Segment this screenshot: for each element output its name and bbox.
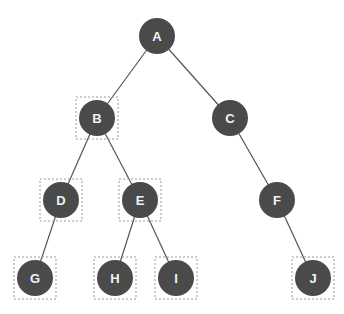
tree-node-a: A	[139, 18, 175, 54]
node-label: F	[273, 193, 281, 208]
node-label: H	[110, 271, 119, 286]
node-label: C	[225, 111, 235, 126]
tree-node-h: H	[97, 260, 133, 296]
tree-node-g: G	[17, 260, 53, 296]
tree-node-c: C	[212, 100, 248, 136]
tree-node-f: F	[259, 182, 295, 218]
tree-node-j: J	[295, 260, 331, 296]
node-label: J	[309, 271, 316, 286]
node-label: I	[174, 271, 178, 286]
node-label: E	[136, 193, 145, 208]
node-label: G	[30, 271, 40, 286]
tree-node-d: D	[43, 182, 79, 218]
tree-node-b: B	[79, 100, 115, 136]
node-label: B	[92, 111, 101, 126]
nodes: ABCDEFGHIJ	[17, 18, 331, 296]
tree-node-i: I	[158, 260, 194, 296]
node-label: D	[56, 193, 65, 208]
node-label: A	[152, 29, 162, 44]
tree-node-e: E	[122, 182, 158, 218]
tree-diagram: ABCDEFGHIJ	[0, 0, 344, 314]
edges	[35, 36, 313, 278]
